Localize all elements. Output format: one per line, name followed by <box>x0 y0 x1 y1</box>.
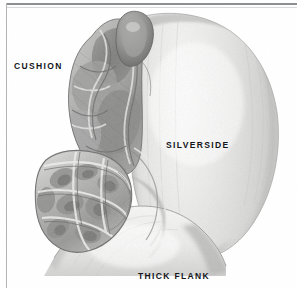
label-cushion: CUSHION <box>14 62 63 71</box>
label-silverside: SILVERSIDE <box>166 141 229 150</box>
beef-cut-illustration <box>0 0 297 288</box>
frame-top-inner-rule <box>7 7 297 8</box>
frame-top-rule <box>6 3 297 5</box>
beef-cut-figure: CUSHION SILVERSIDE THICK FLANK <box>0 0 297 288</box>
frame-left-rule <box>6 3 7 288</box>
label-thick-flank: THICK FLANK <box>138 272 210 281</box>
